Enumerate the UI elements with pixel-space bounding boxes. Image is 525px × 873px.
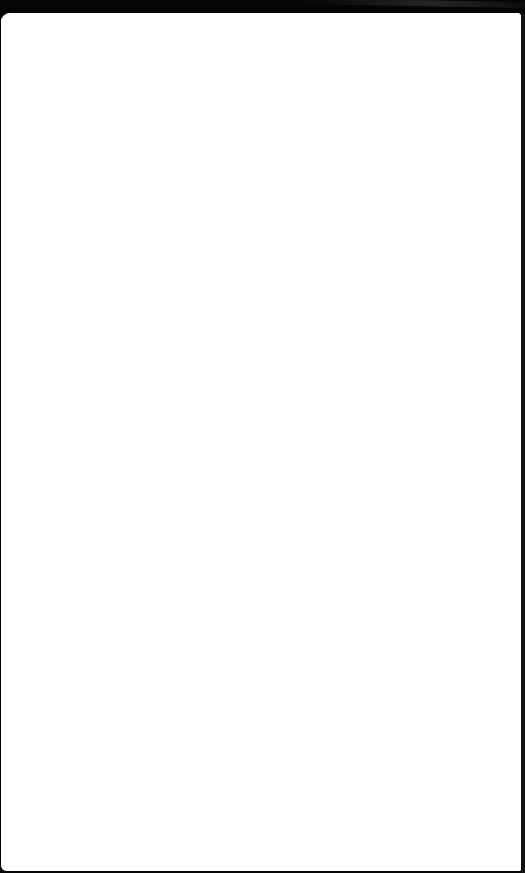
bezel-highlight (300, 0, 525, 8)
device-bezel (0, 0, 525, 873)
blank-page-content[interactable] (1, 13, 521, 871)
bezel-right-edge (521, 13, 525, 873)
blank-window (1, 13, 521, 871)
